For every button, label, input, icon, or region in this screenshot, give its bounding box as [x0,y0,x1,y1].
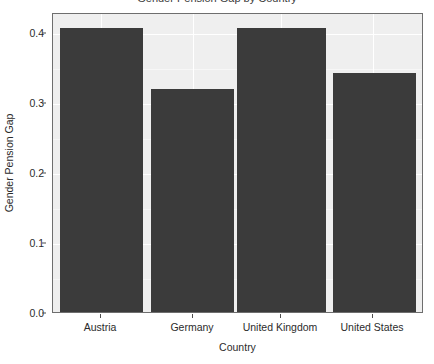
y-tick-mark-3 [42,103,46,104]
x-tick-label-germany: Germany [170,321,213,333]
bar-chart-figure: Gender Pension Gap by Country Gender Pen… [0,0,434,364]
plot-panel [52,13,423,313]
y-tick-mark-1 [42,243,46,244]
x-tick-label-united-states: United States [340,321,403,333]
y-axis-title-text: Gender Pension Gap [3,114,15,213]
chart-title: Gender Pension Gap by Country [0,0,434,5]
y-axis-title: Gender Pension Gap [0,0,18,326]
bar-germany [151,89,234,312]
x-tick-mark-0 [100,314,101,318]
y-tick-mark-2 [42,173,46,174]
bar-austria [60,28,143,312]
y-tick-mark-0 [42,313,46,314]
y-tick-mark-4 [42,33,46,34]
bar-united-kingdom [237,28,326,312]
chart-title-clipped: Gender Pension Gap by Country [0,0,434,5]
x-tick-mark-3 [372,314,373,318]
x-tick-mark-2 [280,314,281,318]
y-axis-ticks: 0.0 0.1 0.2 0.3 0.4 [18,0,46,364]
x-tick-label-austria: Austria [84,321,117,333]
x-tick-label-united-kingdom: United Kingdom [243,321,318,333]
x-axis-title: Country [52,341,423,353]
bar-united-states [333,73,416,312]
x-tick-mark-1 [192,314,193,318]
